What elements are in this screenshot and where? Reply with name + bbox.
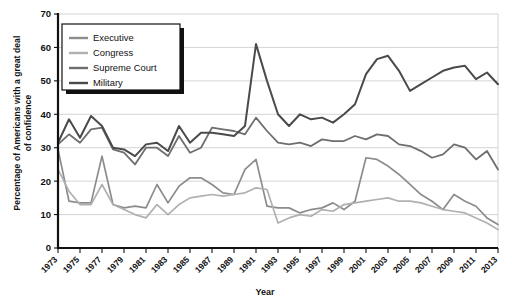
y-tick-label: 70 — [40, 8, 51, 19]
legend-label-congress[interactable]: Congress — [93, 47, 133, 58]
x-tick-label: 2001 — [347, 254, 368, 275]
x-tick-label: 1975 — [61, 254, 82, 275]
x-tick-label: 1979 — [105, 254, 126, 275]
x-tick-label: 1981 — [127, 254, 148, 275]
y-axis-ticks: 010203040506070 — [40, 8, 58, 253]
x-tick-label: 2011 — [457, 254, 477, 274]
x-tick-label: 2007 — [413, 254, 434, 275]
legend-label-executive[interactable]: Executive — [93, 32, 134, 43]
series-line-executive — [58, 149, 498, 224]
series-line-supreme-court — [58, 118, 498, 170]
y-tick-label: 10 — [40, 209, 51, 220]
x-tick-label: 1987 — [193, 254, 214, 275]
confidence-line-chart: Percentage of Americans with a great dea… — [0, 0, 512, 305]
y-tick-label: 40 — [40, 109, 51, 120]
x-tick-label: 1993 — [259, 254, 280, 275]
y-tick-label: 50 — [40, 75, 51, 86]
x-tick-label: 1997 — [303, 254, 324, 275]
x-tick-label: 1991 — [237, 254, 258, 275]
x-tick-label: 1989 — [215, 254, 236, 275]
x-tick-label: 2009 — [435, 254, 456, 275]
x-axis-label: Year — [0, 287, 512, 297]
series-line-congress — [58, 169, 498, 229]
x-tick-label: 2005 — [391, 254, 412, 275]
x-tick-label: 1999 — [325, 254, 346, 275]
plot-area: 010203040506070 197319751977197919811983… — [0, 0, 512, 305]
y-tick-label: 30 — [40, 142, 51, 153]
legend-label-supreme-court[interactable]: Supreme Court — [93, 62, 157, 73]
x-tick-label: 1983 — [149, 254, 170, 275]
x-tick-label: 1995 — [281, 254, 302, 275]
x-tick-label: 1977 — [83, 254, 104, 275]
x-axis-label-text: Year — [255, 287, 274, 297]
y-tick-label: 20 — [40, 176, 51, 187]
x-tick-label: 1985 — [171, 254, 192, 275]
x-tick-label: 1973 — [39, 254, 60, 275]
legend-label-military[interactable]: Military — [93, 77, 123, 88]
x-tick-label: 2013 — [479, 254, 500, 275]
y-tick-label: 0 — [46, 242, 51, 253]
x-axis-ticks: 1973197519771979198119831985198719891991… — [39, 248, 500, 275]
x-tick-label: 2003 — [369, 254, 390, 275]
y-tick-label: 60 — [40, 42, 51, 53]
legend[interactable]: ExecutiveCongressSupreme CourtMilitary — [62, 24, 184, 94]
